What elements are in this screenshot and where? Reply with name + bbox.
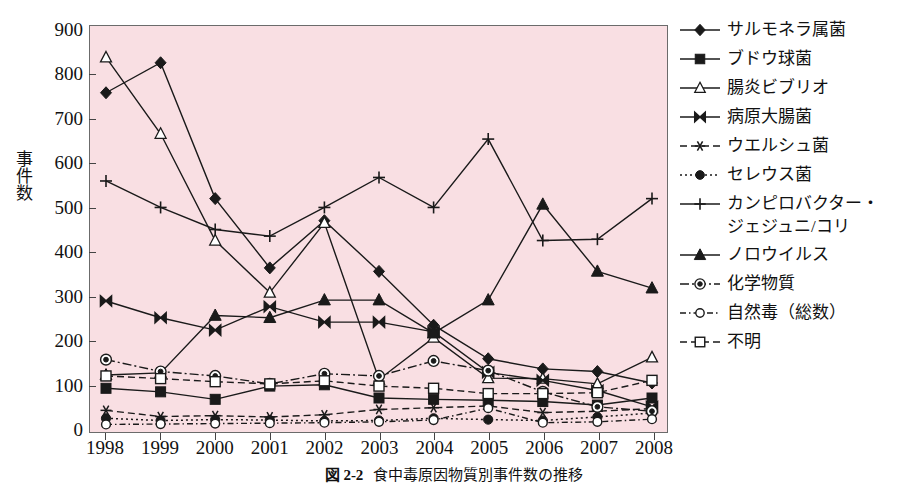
x-tick-mark [215, 433, 216, 440]
x-tick-mark [654, 433, 655, 440]
series-line [106, 139, 652, 240]
x-tick-mark [434, 433, 435, 440]
legend-label: 病原大腸菌 [727, 105, 812, 128]
x-tick-mark [380, 433, 381, 440]
data-point-open-square [592, 388, 602, 398]
data-point-open-triangle [647, 351, 658, 362]
data-point-open-square [483, 389, 493, 399]
x-tick-mark [105, 433, 106, 440]
legend-marker-plus-icon [678, 193, 722, 215]
data-point-open-square [265, 379, 275, 389]
legend-item[interactable]: セレウス菌 [678, 163, 906, 189]
plot-area [89, 25, 668, 433]
x-tick-mark [160, 433, 161, 440]
legend-label: ウエルシュ菌 [727, 134, 829, 157]
data-point-double-circle [377, 374, 382, 379]
data-point-open-circle [429, 416, 438, 425]
data-point-bowtie [101, 296, 112, 306]
legend-marker-filled-circle-icon [678, 164, 722, 186]
legend-label: ブドウ球菌 [727, 47, 812, 70]
y-tick-mark [89, 119, 96, 120]
legend-item[interactable]: ウエルシュ菌 [678, 134, 906, 160]
data-point-open-circle [211, 419, 220, 428]
data-point-open-circle [593, 417, 602, 426]
legend-item[interactable]: 自然毒（総数） [678, 301, 906, 327]
legend-item[interactable]: 腸炎ビブリオ [678, 76, 906, 102]
data-point-filled-square [695, 54, 705, 64]
data-point-open-triangle [101, 51, 112, 62]
plot-svg [90, 26, 666, 431]
legend-marker-open-circle-icon [678, 302, 722, 324]
legend-label: 化学物質 [727, 272, 795, 295]
data-point-filled-square [647, 393, 657, 403]
data-point-filled-circle [484, 415, 493, 424]
data-point-open-circle [265, 419, 274, 428]
data-point-double-circle [104, 357, 109, 362]
data-point-open-circle [320, 418, 329, 427]
data-point-filled-square [101, 383, 111, 393]
legend-item[interactable]: 病原大腸菌 [678, 105, 906, 131]
data-point-filled-triangle [694, 249, 705, 260]
legend-marker-filled-diamond-icon [678, 19, 722, 41]
data-point-open-triangle [210, 235, 221, 246]
x-tick-mark [599, 433, 600, 440]
data-point-filled-diamond [592, 366, 603, 378]
data-point-bowtie [374, 317, 385, 327]
y-tick-label: 900 [37, 20, 83, 39]
data-point-filled-diamond [101, 87, 112, 99]
data-point-open-circle [696, 309, 704, 317]
y-tick-mark [89, 252, 96, 253]
legend-item[interactable]: ノロウイルス [678, 243, 906, 269]
series-polyline [106, 406, 652, 417]
legend-item[interactable]: サルモネラ属菌 [678, 18, 906, 44]
series-polyline [106, 139, 652, 240]
data-point-open-square [101, 371, 111, 381]
legend-marker-filled-triangle-icon [678, 244, 722, 266]
legend-label: 不明 [727, 330, 761, 353]
y-tick-label: 600 [37, 153, 83, 172]
y-tick-label: 300 [37, 287, 83, 306]
y-tick-mark [89, 386, 96, 387]
legend-label: セレウス菌 [727, 163, 812, 186]
y-axis-title: 事件数 [6, 150, 32, 201]
figure-number: 図 2-2 [325, 467, 364, 483]
y-tick-label: 800 [37, 64, 83, 83]
data-point-filled-circle [696, 171, 705, 180]
data-point-bowtie [695, 112, 705, 122]
legend-label: カンピロバクター・ ジェジュニ/コリ [727, 192, 879, 238]
data-point-bowtie [155, 313, 166, 323]
data-point-filled-square [210, 394, 220, 404]
x-tick-mark [325, 433, 326, 440]
legend-marker-open-triangle-icon [678, 77, 722, 99]
data-point-filled-square [156, 387, 166, 397]
chart-legend: サルモネラ属菌ブドウ球菌腸炎ビブリオ病原大腸菌ウエルシュ菌セレウス菌カンピロバク… [678, 18, 906, 359]
data-point-open-circle [648, 415, 657, 424]
y-tick-label: 500 [37, 198, 83, 217]
data-point-open-circle [102, 420, 111, 429]
series-polyline [106, 204, 652, 375]
figure-caption-text: 食中毒原因物質別事件数の推移 [373, 467, 583, 483]
y-tick-label: 700 [37, 109, 83, 128]
legend-marker-bowtie-icon [678, 106, 722, 128]
legend-marker-open-square-icon [678, 331, 722, 353]
legend-label: 自然毒（総数） [727, 301, 846, 324]
data-point-open-square [210, 377, 220, 387]
legend-item[interactable]: 化学物質 [678, 272, 906, 298]
figure-caption: 図 2-2食中毒原因物質別事件数の推移 [0, 466, 908, 484]
legend-label: ノロウイルス [727, 243, 829, 266]
data-point-open-circle [538, 418, 547, 427]
series-line [106, 63, 652, 383]
x-tick-mark [544, 433, 545, 440]
legend-item[interactable]: 不明 [678, 330, 906, 356]
data-point-filled-diamond [483, 353, 494, 365]
series-line [106, 406, 652, 417]
legend-marker-filled-square-icon [678, 48, 722, 70]
data-point-bowtie [210, 325, 221, 335]
y-tick-label: 100 [37, 376, 83, 395]
data-point-double-circle [431, 359, 436, 364]
x-tick-mark [270, 433, 271, 440]
y-tick-mark [89, 341, 96, 342]
data-point-filled-diamond [695, 24, 705, 35]
legend-item[interactable]: ブドウ球菌 [678, 47, 906, 73]
legend-item[interactable]: カンピロバクター・ ジェジュニ/コリ [678, 192, 906, 240]
